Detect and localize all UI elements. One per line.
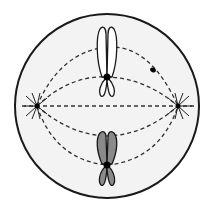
- cell-division-diagram: [0, 0, 211, 212]
- upper-centromere: [104, 74, 111, 81]
- left-centrosome-icon: [35, 104, 40, 109]
- diagram-canvas: [0, 0, 211, 212]
- right-centrosome-icon: [176, 104, 181, 109]
- lower-centromere: [104, 162, 111, 169]
